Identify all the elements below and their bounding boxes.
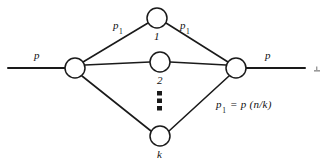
equation-p1-definition: p1= p (n/k)	[216, 99, 272, 113]
node-right-hub	[226, 58, 246, 78]
nodes-group	[65, 8, 246, 146]
label-node-middle: 2	[157, 75, 163, 86]
label-branch-left-rate-sub: 1	[119, 27, 123, 36]
diagram-canvas	[0, 0, 326, 163]
edge-branch-2-to-right	[170, 62, 226, 65]
node-branch-2	[150, 52, 170, 72]
node-left-hub	[65, 58, 85, 78]
fanout-network-figure: p p p1 p1 1 2 k p1= p (n/k)	[0, 0, 326, 163]
ellipsis-dot	[157, 91, 162, 96]
edge-artifact-mark	[314, 67, 320, 72]
label-branch-right-rate-sub: 1	[186, 27, 190, 36]
label-branch-left-rate: p1	[113, 20, 122, 34]
edge-branch-1-to-right	[166, 23, 228, 62]
ellipsis-dot	[157, 99, 162, 104]
label-right-flow: p	[265, 50, 271, 61]
equation-lhs-base: p	[216, 98, 222, 110]
edge-left-to-branch-2	[85, 62, 150, 65]
label-node-bottom: k	[157, 149, 162, 160]
label-left-flow: p	[34, 50, 40, 61]
vertical-ellipsis-icon	[157, 91, 162, 111]
label-branch-right-rate-base: p	[180, 19, 186, 31]
label-branch-right-rate: p1	[180, 20, 189, 34]
node-branch-1	[147, 8, 167, 28]
label-branch-left-rate-base: p	[113, 19, 119, 31]
equation-lhs-sub: 1	[222, 106, 226, 115]
equation-rhs: = p (n/k)	[230, 98, 272, 110]
node-branch-k	[150, 126, 170, 146]
ellipsis-dot	[157, 106, 162, 111]
edge-left-to-branch-k	[82, 76, 151, 131]
label-node-top: 1	[154, 31, 160, 42]
